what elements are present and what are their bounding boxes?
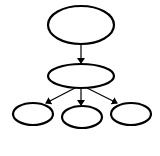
node-child-right — [111, 103, 151, 125]
edge-middle-to-child-right — [87, 88, 117, 103]
node-child-center — [62, 106, 102, 128]
node-root — [48, 6, 114, 44]
node-child-left — [13, 103, 53, 125]
edge-middle-to-child-left — [46, 88, 75, 103]
tree-diagram — [0, 0, 160, 156]
node-middle — [48, 64, 114, 88]
